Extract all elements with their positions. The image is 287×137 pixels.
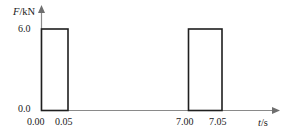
x-axis-unit: /s: [261, 117, 268, 128]
force-time-graph: F/kN t/s 6.0 0.0 0.00 0.05 7.00 7.05: [0, 0, 287, 137]
x-tick-label-2: 7.00: [176, 117, 194, 127]
x-axis-arrow-icon: [272, 107, 280, 114]
bar-pulse-1: [42, 29, 69, 111]
y-axis-arrow-icon: [38, 5, 45, 13]
x-axis-title: t/s: [258, 118, 268, 129]
x-tick-label-0: 0.00: [27, 117, 45, 127]
y-axis-unit: /kN: [19, 6, 35, 17]
x-tick-label-3: 7.05: [209, 117, 227, 127]
y-tick-label-0: 0.0: [18, 104, 31, 114]
y-tick-label-6: 6.0: [18, 24, 31, 34]
bar-pulse-2: [189, 29, 223, 111]
x-tick-label-1: 0.05: [55, 117, 73, 127]
y-axis-title: F/kN: [13, 7, 35, 18]
